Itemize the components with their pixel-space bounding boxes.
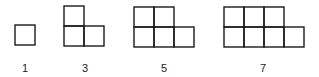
unit-square <box>15 25 35 45</box>
figure-1: 1 <box>15 25 35 74</box>
unit-square <box>224 7 244 27</box>
unit-square <box>154 27 174 47</box>
figure-label: 7 <box>260 62 266 74</box>
figure-3: 3 <box>64 6 104 74</box>
unit-square <box>244 27 264 47</box>
unit-square <box>264 7 284 27</box>
unit-square <box>134 27 154 47</box>
unit-square <box>174 27 194 47</box>
unit-square <box>284 27 304 47</box>
unit-square <box>244 7 264 27</box>
unit-square <box>64 26 84 46</box>
figure-label: 3 <box>82 62 88 74</box>
figure-5: 5 <box>134 7 194 74</box>
unit-square <box>84 26 104 46</box>
unit-square <box>264 27 284 47</box>
unit-square <box>154 7 174 27</box>
figure-label: 1 <box>22 62 28 74</box>
staircase-figure-sequence: 1357 <box>0 0 319 77</box>
unit-square <box>64 6 84 26</box>
figure-label: 5 <box>161 62 167 74</box>
unit-square <box>134 7 154 27</box>
unit-square <box>224 27 244 47</box>
figure-7: 7 <box>224 7 304 74</box>
